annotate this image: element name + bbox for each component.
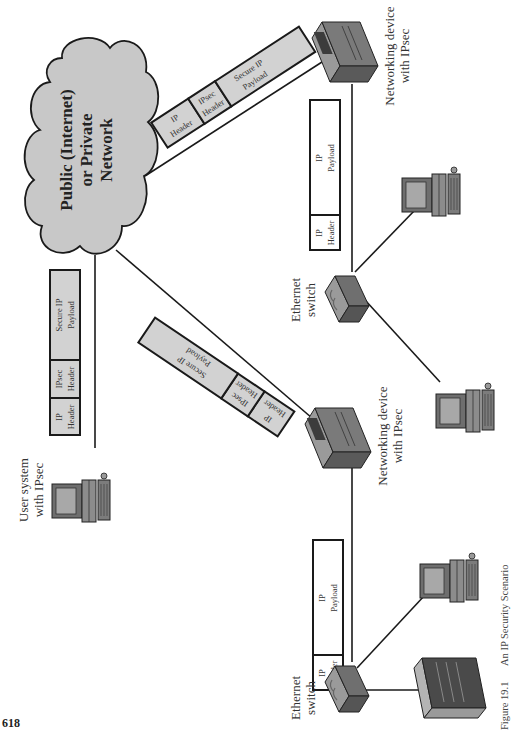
network-cloud: Public (Internet) or Private Network bbox=[25, 38, 159, 254]
ethernet-switch-bottom-label: Ethernet switch bbox=[288, 676, 318, 720]
user-payload-l1: Secure IP bbox=[54, 298, 64, 331]
net-device-bottom-label-line1: Networking device bbox=[375, 386, 390, 486]
switch-bottom-label-line1: Ethernet bbox=[288, 676, 303, 720]
user-system-label-line1: User system bbox=[16, 458, 31, 522]
computer-top-1-icon bbox=[402, 167, 460, 216]
user-system-label-line2: with IPsec bbox=[31, 463, 46, 518]
lower-plain-payload-l2: Payload bbox=[329, 584, 339, 612]
server-icon bbox=[414, 658, 486, 718]
user-ipsec-header-l2: Header bbox=[66, 367, 76, 392]
user-ipsec-header-l1: IPsec bbox=[54, 370, 64, 389]
cloud-label-line2: or Private bbox=[77, 113, 96, 186]
upper-plain-payload-l1: IP bbox=[314, 154, 324, 162]
switch-top-label-line2: switch bbox=[303, 283, 318, 317]
ipsec-diagram: Public (Internet) or Private Network IP … bbox=[0, 0, 519, 736]
cloud-label-line3: Network bbox=[97, 118, 116, 182]
secure-packet-user: IP Header IPsec Header Secure IP Payload bbox=[50, 270, 80, 435]
computer-top-2-icon bbox=[436, 383, 494, 432]
secure-packet-upper: IP Header IPsec Header Secure IP Payload bbox=[151, 27, 315, 148]
networking-device-bottom-icon bbox=[305, 408, 371, 468]
link-top-switch-to-pc2 bbox=[365, 300, 440, 382]
ethernet-switch-bottom-icon bbox=[325, 666, 369, 712]
cloud-label-line1: Public (Internet) bbox=[57, 89, 76, 210]
networking-device-top-icon bbox=[312, 22, 378, 82]
net-device-top-label-line2: with IPsec bbox=[397, 29, 412, 84]
user-ip-header-l1: IP bbox=[54, 413, 64, 421]
figure-caption: Figure 19.1 An IP Security Scenario bbox=[499, 565, 510, 730]
computer-bottom-icon bbox=[420, 553, 478, 602]
plain-packet-upper: IP Header IP Payload bbox=[310, 100, 340, 250]
page-number: 618 bbox=[2, 716, 20, 731]
user-system-label: User system with IPsec bbox=[16, 458, 46, 522]
net-device-top-label-line1: Networking device bbox=[382, 6, 397, 106]
networking-device-top-label: Networking device with IPsec bbox=[382, 6, 412, 106]
switch-bottom-label-line2: switch bbox=[303, 681, 318, 715]
lower-plain-ip-header-l1: IP bbox=[317, 669, 327, 677]
net-device-bottom-label-line2: with IPsec bbox=[390, 409, 405, 464]
figure-title: An IP Security Scenario bbox=[499, 565, 510, 666]
link-bottom-switch-to-pc bbox=[357, 595, 425, 668]
upper-plain-payload-l2: Payload bbox=[326, 144, 336, 172]
switch-top-label-line1: Ethernet bbox=[288, 278, 303, 322]
figure-number: Figure 19.1 bbox=[499, 682, 510, 730]
upper-plain-ip-header-l2: Header bbox=[326, 221, 336, 246]
ethernet-switch-top-label: Ethernet switch bbox=[288, 278, 318, 322]
user-ip-header-l2: Header bbox=[66, 405, 76, 430]
user-system-computer-icon bbox=[52, 473, 110, 522]
upper-plain-ip-header-l1: IP bbox=[314, 229, 324, 237]
networking-device-bottom-label: Networking device with IPsec bbox=[375, 386, 405, 486]
link-top-switch-to-pc1 bbox=[355, 210, 415, 272]
ethernet-switch-top-icon bbox=[325, 276, 369, 322]
lower-plain-payload-l1: IP bbox=[317, 594, 327, 602]
user-payload-l2: Payload bbox=[66, 301, 76, 329]
